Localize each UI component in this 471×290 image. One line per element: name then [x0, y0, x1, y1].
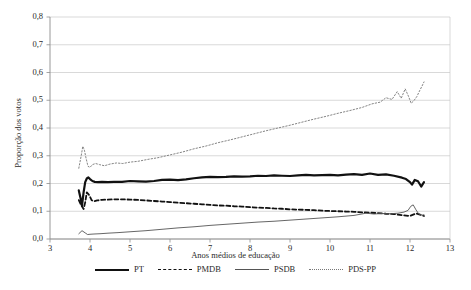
x-tick-label: 12: [400, 243, 420, 253]
chart-container: Proporção dos votos Anos médios de educa…: [0, 0, 471, 290]
series-line-pds-pp: [79, 82, 424, 168]
legend-label-pt: PT: [134, 264, 144, 274]
legend-label-pdspp: PDS-PP: [348, 264, 376, 274]
y-tick-label: 0,7: [17, 39, 43, 49]
y-tick-label: 0,1: [17, 205, 43, 215]
y-tick-label: 0,6: [17, 67, 43, 77]
legend-item-pmdb[interactable]: PMDB: [158, 264, 221, 274]
y-tick-label: 0,8: [17, 11, 43, 21]
legend-item-pt[interactable]: PT: [95, 264, 144, 274]
x-tick-label: 6: [160, 243, 180, 253]
legend-item-psdb[interactable]: PSDB: [235, 264, 295, 274]
x-tick-label: 13: [440, 243, 460, 253]
chart-legend: PTPMDBPSDBPDS-PP: [0, 264, 471, 274]
y-tick-label: 0,2: [17, 178, 43, 188]
y-tick-label: 0,4: [17, 122, 43, 132]
x-tick-label: 4: [80, 243, 100, 253]
legend-line-swatch-pmdb: [158, 265, 192, 273]
y-tick-label: 0,0: [17, 233, 43, 243]
y-tick-label: 0,3: [17, 150, 43, 160]
legend-line-swatch-pt: [95, 265, 129, 273]
legend-label-pmdb: PMDB: [197, 264, 221, 274]
x-tick-label: 3: [40, 243, 60, 253]
series-line-psdb: [79, 205, 424, 235]
legend-item-pdspp[interactable]: PDS-PP: [309, 264, 376, 274]
x-tick-label: 10: [320, 243, 340, 253]
x-tick-label: 9: [280, 243, 300, 253]
y-tick-label: 0,5: [17, 94, 43, 104]
x-tick-label: 7: [200, 243, 220, 253]
series-line-pmdb: [79, 192, 424, 216]
legend-label-psdb: PSDB: [274, 264, 295, 274]
legend-line-swatch-psdb: [235, 265, 269, 273]
legend-line-swatch-pdspp: [309, 265, 343, 273]
x-tick-label: 8: [240, 243, 260, 253]
series-line-pt: [79, 174, 424, 206]
x-tick-label: 11: [360, 243, 380, 253]
x-tick-label: 5: [120, 243, 140, 253]
